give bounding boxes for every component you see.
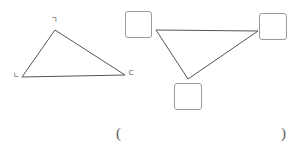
answer-box-bottom[interactable] [174, 83, 202, 110]
answer-blank[interactable]: ( ) [124, 126, 280, 144]
vertex-label-apex: ㄱ [51, 17, 57, 24]
vertex-label-bottom-left: ㄴ [13, 72, 19, 79]
vertex-label-bottom-right: ㄷ [128, 70, 134, 77]
answer-box-top-left[interactable] [125, 11, 152, 38]
open-paren: ( [116, 126, 121, 141]
worksheet-page: ㄱ ㄴ ㄷ ( ) [0, 0, 300, 155]
right-triangle-shape [156, 30, 258, 79]
left-triangle-shape [22, 30, 125, 77]
close-paren: ) [281, 126, 286, 141]
answer-box-top-right[interactable] [259, 13, 287, 40]
